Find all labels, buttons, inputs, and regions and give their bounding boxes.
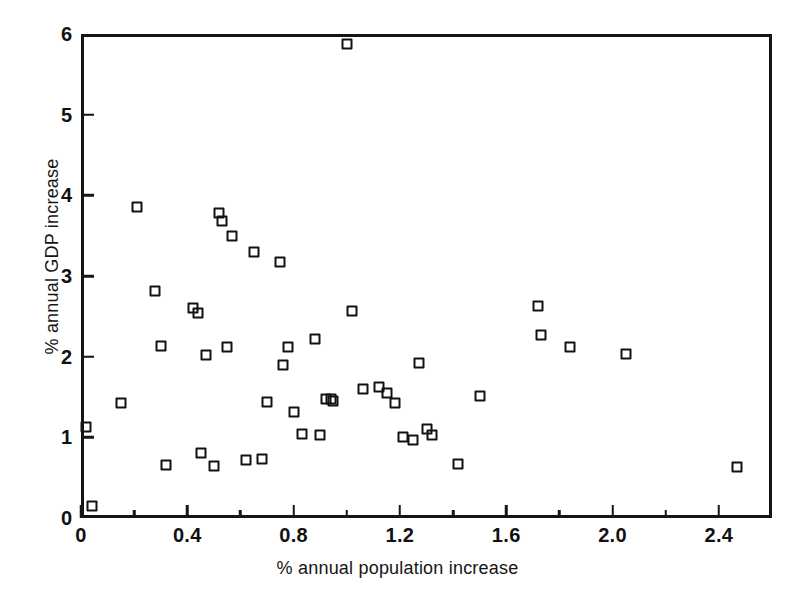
y-tick-major [81,194,94,197]
x-tick-minor [664,510,667,518]
y-tick-major [81,275,94,278]
x-tick-label: 2.0 [598,524,627,547]
data-point [150,286,161,297]
x-tick-major [505,505,508,518]
x-tick-major [718,505,721,518]
y-tick-label: 6 [61,23,72,46]
data-point [155,341,166,352]
data-point [397,432,408,443]
y-tick-major [81,436,94,439]
data-point [275,257,286,268]
data-point [565,341,576,352]
data-point [453,458,464,469]
data-point [81,421,92,432]
data-point [413,358,424,369]
data-point [288,407,299,418]
x-tick-minor [558,510,561,518]
data-point [296,429,307,440]
data-point [222,341,233,352]
x-axis-title: % annual population increase [0,558,795,579]
x-tick-major [186,505,189,518]
scatter-chart-figure: 00.40.81.21.62.02.4 0123456 % annual pop… [0,0,795,602]
data-point [533,300,544,311]
data-point [115,397,126,408]
data-point [277,359,288,370]
x-tick-label: 2.4 [704,524,733,547]
data-point [315,429,326,440]
data-point [283,341,294,352]
x-tick-minor [346,510,349,518]
data-point [474,391,485,402]
x-tick-minor [239,510,242,518]
y-axis-title: % annual GDP increase [42,107,63,407]
data-point [347,305,358,316]
x-tick-label: 0 [75,524,86,547]
y-tick-major [81,355,94,358]
data-point [262,396,273,407]
x-tick-major [80,505,83,518]
x-tick-label: 0.4 [173,524,202,547]
data-point [161,459,172,470]
y-tick-label: 2 [61,345,72,368]
y-tick-label: 5 [61,103,72,126]
data-point [535,329,546,340]
x-tick-label: 1.6 [492,524,521,547]
x-tick-major [399,505,402,518]
plot-frame [81,34,772,518]
data-point [200,350,211,361]
data-point [240,454,251,465]
y-tick-label: 0 [61,507,72,530]
y-tick-major [81,113,94,116]
data-point [426,429,437,440]
data-point [341,38,352,49]
x-tick-minor [133,510,136,518]
x-tick-label: 0.8 [279,524,308,547]
data-point [256,454,267,465]
data-point [227,230,238,241]
y-tick-label: 3 [61,265,72,288]
data-point [309,333,320,344]
plot-area [81,34,772,518]
data-point [732,462,743,473]
x-tick-major [292,505,295,518]
data-point [248,246,259,257]
y-tick-label: 4 [61,184,72,207]
x-tick-major [611,505,614,518]
data-point [620,349,631,360]
data-point [131,202,142,213]
data-point [328,396,339,407]
x-tick-minor [452,510,455,518]
data-point [216,216,227,227]
data-point [408,434,419,445]
data-point [208,460,219,471]
data-point [389,397,400,408]
data-point [86,500,97,511]
x-tick-label: 1.2 [386,524,415,547]
data-point [357,383,368,394]
y-tick-label: 1 [61,426,72,449]
data-point [192,308,203,319]
data-point [195,448,206,459]
